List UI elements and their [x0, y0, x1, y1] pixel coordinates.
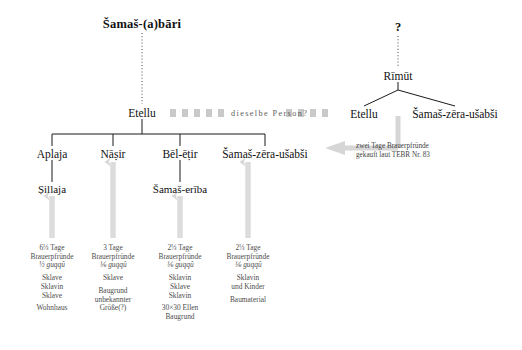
node-samas-zera-usabsi-left: Šamaš-zēra-ušabši	[222, 148, 308, 160]
node-rimut: Rīmūt	[384, 70, 413, 82]
genealogy-diagram: Šamaš-(a)bāri ? Etellu Rīmūt dieselbe Pe…	[0, 0, 522, 350]
purchase-annotation-line1: zwei Tage Brauerpfründe	[356, 142, 430, 151]
guqqu-share: ⅙ guqqû	[158, 261, 201, 270]
purchase-annotation-line2: gekauft laut TEBR Nr. 83	[356, 151, 430, 160]
ownership-arrows	[52, 162, 248, 238]
guqqu-share: ⅙ guqqû	[91, 261, 134, 270]
same-person-label: dieselbe Person?	[231, 110, 308, 118]
guqqu-share: ⅙ guqqû	[226, 261, 269, 270]
property-block-4: 2⅓ Tage Brauerpfründe ⅙ guqqû Sklavin un…	[226, 244, 269, 304]
node-samas-zera-usabsi-right: Šamaš-zēra-ušabši	[412, 108, 498, 120]
guqqu-share: ½ guqqû	[30, 261, 73, 270]
item: Sklavin	[158, 292, 201, 301]
extra: Baumaterial	[226, 296, 269, 305]
extra: Baugrund	[158, 313, 201, 322]
node-etellu-left: Etellu	[128, 107, 155, 119]
item: Sklave	[91, 274, 134, 283]
node-nasir: Nāṣir	[101, 148, 126, 160]
purchase-annotation: zwei Tage Brauerpfründe gekauft laut TEB…	[356, 142, 430, 160]
node-sillaja: Ṣillaja	[38, 184, 66, 196]
node-root-right-unknown: ?	[395, 21, 401, 34]
item: Sklave	[30, 292, 73, 301]
node-root-left: Šamaš-(a)bāri	[103, 18, 181, 31]
node-aplaja: Aplaja	[37, 148, 68, 160]
item: und Kinder	[226, 283, 269, 292]
node-bel-etir: Bēl-ēṭir	[162, 148, 197, 160]
property-block-1: 6⅓ Tage Brauerpfründe ½ guqqû Sklave Skl…	[30, 244, 73, 313]
extra: Größe(?)	[91, 304, 134, 313]
property-block-3: 2⅓ Tage Brauerpfründe ⅙ guqqû Sklavin Sk…	[158, 244, 201, 322]
property-block-2: 3 Tage Brauerpfründe ⅙ guqqû Sklave Baug…	[91, 244, 134, 313]
node-samas-eriba: Šamaš-erība	[153, 184, 207, 196]
extra: Wohnhaus	[30, 304, 73, 313]
node-etellu-right: Etellu	[350, 108, 377, 120]
